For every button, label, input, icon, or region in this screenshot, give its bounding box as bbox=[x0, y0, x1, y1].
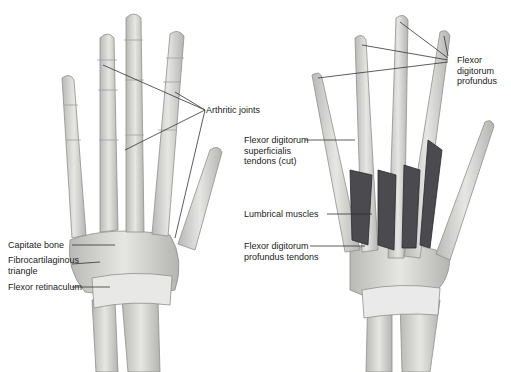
label-flexor-digitorum-superficialis: Flexor digitorum superficialis tendons (… bbox=[244, 135, 309, 167]
label-fds-line2: superficialis bbox=[244, 146, 309, 157]
left-hand-skeleton bbox=[62, 14, 222, 372]
label-fibrocartilaginous-line1: Fibrocartilaginous bbox=[8, 255, 79, 266]
label-fds-line1: Flexor digitorum bbox=[244, 135, 309, 146]
label-capitate-bone: Capitate bone bbox=[8, 240, 64, 251]
label-fdp-line3: profundus bbox=[457, 76, 497, 87]
label-fdpt-line2: profundus tendons bbox=[244, 252, 319, 263]
label-fdp-line1: Flexor bbox=[457, 55, 497, 66]
label-fds-line3: tendons (cut) bbox=[244, 156, 309, 167]
label-fdp-line2: digitorum bbox=[457, 66, 497, 77]
label-arthritic-joints: Arthritic joints bbox=[206, 105, 260, 116]
label-flexor-digitorum-profundus: Flexor digitorum profundus bbox=[457, 55, 497, 87]
label-flexor-digitorum-profundus-tendons: Flexor digitorum profundus tendons bbox=[244, 241, 319, 262]
label-fdpt-line1: Flexor digitorum bbox=[244, 241, 319, 252]
label-fibrocartilaginous-triangle: Fibrocartilaginous triangle bbox=[8, 255, 79, 276]
label-flexor-retinaculum: Flexor retinaculum bbox=[8, 282, 82, 293]
label-lumbrical-muscles: Lumbrical muscles bbox=[244, 209, 319, 220]
hand-anatomy-illustration bbox=[0, 0, 511, 372]
label-fibrocartilaginous-line2: triangle bbox=[8, 266, 79, 277]
